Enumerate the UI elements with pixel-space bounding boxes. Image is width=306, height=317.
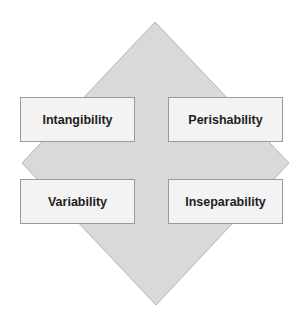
box-perishability: Perishability [168, 97, 283, 142]
box-intangibility: Intangibility [20, 97, 135, 142]
box-label: Inseparability [185, 195, 266, 209]
box-label: Variability [48, 195, 107, 209]
box-variability: Variability [20, 179, 135, 224]
box-label: Perishability [188, 113, 262, 127]
box-inseparability: Inseparability [168, 179, 283, 224]
box-label: Intangibility [42, 113, 112, 127]
diamond-shape [0, 0, 306, 317]
